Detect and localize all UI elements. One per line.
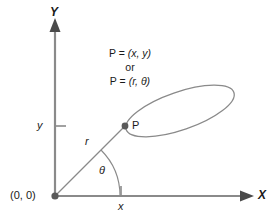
x-axis-arrowhead-icon: [240, 191, 254, 202]
polar-rhs: (r, θ): [129, 75, 150, 87]
y-axis-arrowhead-icon: [50, 18, 61, 32]
equation-block: P = (x, y) or P = (r, θ): [72, 46, 188, 88]
point-p-label: P: [132, 120, 139, 131]
cartesian-equation: P = (x, y): [72, 46, 188, 60]
polar-equals: =: [120, 75, 126, 87]
cartesian-rhs: (x, y): [128, 47, 151, 59]
coordinate-diagram-figure: X Y (0, 0) y x P r θ P = (x, y) or P = (…: [0, 0, 278, 220]
y-tick-label: y: [37, 120, 43, 131]
diagram-canvas: [0, 0, 278, 220]
radius-line: [55, 126, 125, 196]
equation-connector: or: [72, 60, 188, 74]
polar-equation: P = (r, θ): [72, 74, 188, 88]
point-p-marker: [122, 123, 129, 130]
cartesian-lhs: P: [109, 47, 116, 59]
cartesian-equals: =: [119, 47, 125, 59]
polar-lhs: P: [110, 75, 117, 87]
angle-label: θ: [99, 165, 105, 176]
x-tick-label: x: [118, 201, 124, 212]
y-axis-label: Y: [50, 6, 58, 18]
origin-marker: [51, 192, 58, 199]
x-axis-label: X: [258, 189, 266, 201]
radius-label: r: [85, 136, 89, 147]
origin-label: (0, 0): [10, 190, 36, 201]
